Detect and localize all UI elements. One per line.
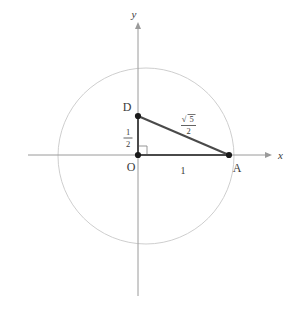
- x-axis-label: x: [277, 149, 283, 161]
- y-axis-arrow-icon: [135, 22, 141, 29]
- x-axis-arrow-icon: [265, 152, 272, 158]
- length-da-radicand: 5: [189, 114, 193, 124]
- length-label-da: √ 5 2: [181, 114, 196, 136]
- length-label-oa: 1: [181, 165, 186, 176]
- length-od-numerator: 1: [126, 127, 130, 137]
- y-axis-label: y: [131, 8, 137, 20]
- diagram-canvas: y x O D A 1 2 1 √ 5 2: [0, 0, 293, 314]
- length-od-denominator: 2: [126, 139, 130, 149]
- point-label-d: D: [123, 100, 132, 114]
- geometry-diagram: y x O D A 1 2 1 √ 5 2: [0, 0, 293, 314]
- length-da-denominator: 2: [186, 126, 190, 136]
- point-a-dot: [226, 152, 232, 158]
- point-d-dot: [135, 113, 141, 119]
- point-label-a: A: [233, 161, 242, 175]
- point-o-dot: [135, 152, 141, 158]
- length-label-od: 1 2: [124, 127, 133, 149]
- point-label-o: O: [127, 160, 136, 174]
- length-da-radical-icon: √: [182, 114, 187, 124]
